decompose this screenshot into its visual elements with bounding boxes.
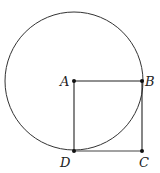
point-c bbox=[140, 149, 144, 153]
label-a: A bbox=[59, 74, 69, 89]
label-b: B bbox=[144, 74, 155, 89]
geometry-diagram: A B C D bbox=[0, 0, 160, 173]
point-a bbox=[72, 79, 76, 83]
point-d bbox=[72, 149, 76, 153]
caption-text-cutoff bbox=[0, 164, 160, 173]
point-b bbox=[140, 79, 144, 83]
